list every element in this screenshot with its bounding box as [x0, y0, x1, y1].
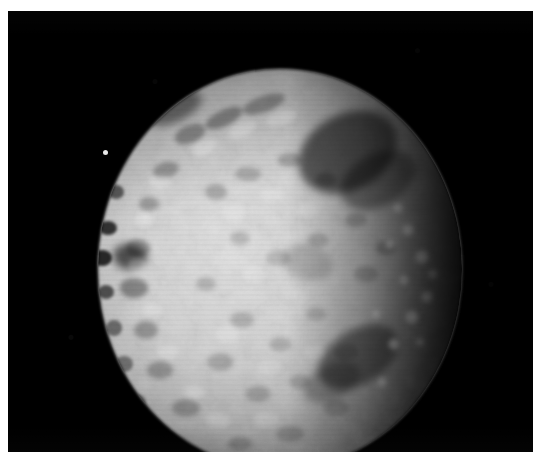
- bottom-limb-darkening: [94, 52, 466, 452]
- moon-svg: [94, 52, 466, 452]
- photograph-plate: Grayscale spacecraft photograph of a hea…: [8, 11, 533, 452]
- photograph-alt-text: Grayscale spacecraft photograph of a hea…: [8, 11, 9, 12]
- photo-page: Grayscale spacecraft photograph of a hea…: [0, 0, 545, 467]
- moon-disk: [94, 52, 466, 452]
